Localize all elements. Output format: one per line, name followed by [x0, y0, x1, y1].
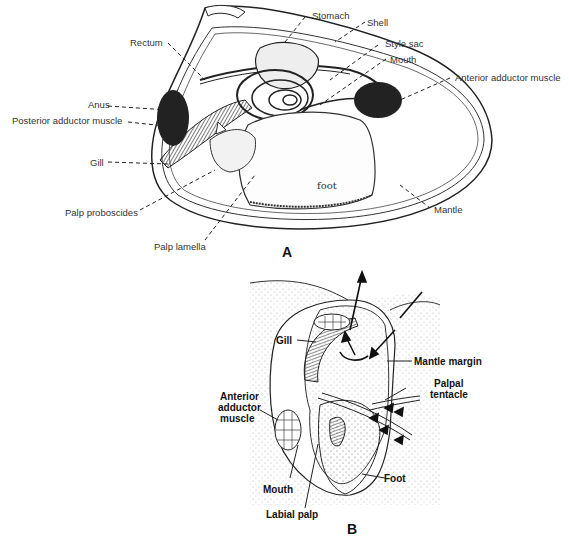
- label-tentacle: tentacle: [430, 389, 468, 400]
- label-gill-b: Gill: [276, 335, 292, 346]
- clam-feeding-figure-b: [250, 272, 440, 508]
- stomach-shape: [256, 43, 319, 89]
- label-anterior-adductor-muscle: Anterior adductor muscle: [455, 72, 561, 83]
- label-style-sac: Style sac: [385, 38, 424, 49]
- label-muscle: muscle: [220, 413, 254, 424]
- label-posterior-adductor-muscle: Posterior adductor muscle: [12, 115, 122, 126]
- label-anus: Anus: [88, 99, 110, 110]
- label-rectum: Rectum: [130, 37, 163, 48]
- label-mantle-margin: Mantle margin: [414, 356, 482, 367]
- anterior-adductor-shape: [354, 82, 402, 118]
- foot-shape: [239, 112, 375, 209]
- panel-label-a: A: [282, 244, 292, 260]
- label-mantle: Mantle: [434, 204, 463, 215]
- label-palp-proboscides: Palp proboscides: [65, 207, 138, 218]
- label-foot: foot: [317, 180, 337, 191]
- label-mouth-b: Mouth: [263, 484, 293, 495]
- label-gill: Gill: [90, 157, 104, 168]
- label-adductor: adductor: [218, 402, 261, 413]
- label-shell: Shell: [367, 17, 388, 28]
- label-anterior: Anterior: [220, 391, 259, 402]
- panel-label-b: B: [347, 521, 357, 536]
- label-palp-lamella: Palp lamella: [154, 241, 206, 252]
- label-palpal: Palpal: [434, 378, 463, 389]
- label-labial-palp: Labial palp: [266, 509, 318, 520]
- label-mouth: Mouth: [390, 54, 416, 65]
- label-stomach: Stomach: [312, 10, 350, 21]
- label-foot-b: Foot: [384, 473, 406, 484]
